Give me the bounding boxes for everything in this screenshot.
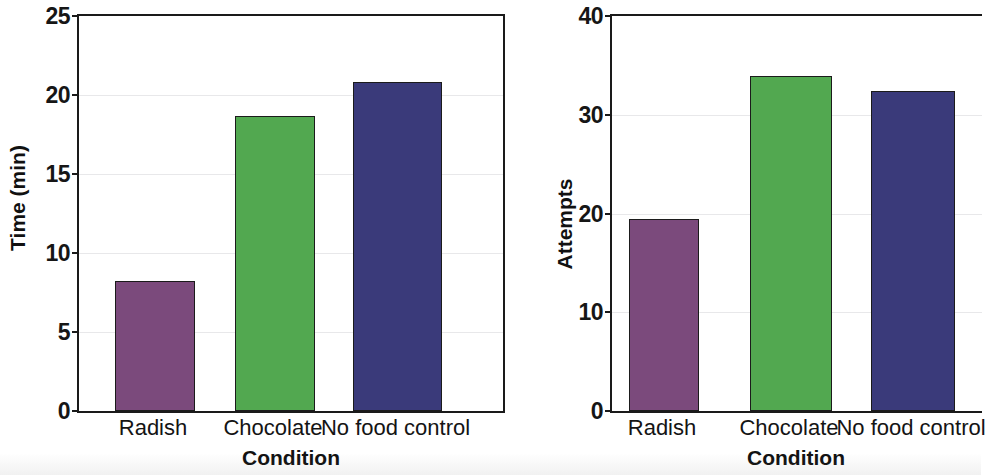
y-axis-tick-mark (605, 114, 612, 116)
y-axis-tick-mark (605, 15, 612, 17)
bar-no-food-control (871, 91, 955, 411)
y-axis-tick-mark (605, 311, 612, 313)
x-axis-category-labels-left: RadishChocolateNo food control (77, 415, 505, 445)
y-axis-title-right: Attempts (553, 164, 577, 284)
chart-panel-attempts: Attempts 010203040 RadishChocolateNo foo… (505, 0, 981, 475)
bar-chocolate (235, 116, 315, 411)
x-axis-category-labels-right: RadishChocolateNo food control (610, 415, 982, 445)
x-axis-title-left: Condition (77, 446, 505, 470)
x-axis-label-chocolate: Chocolate (223, 415, 322, 441)
y-axis-tick-mark (72, 173, 79, 175)
plot-area-right: 010203040 (610, 14, 982, 413)
bar-radish (115, 281, 195, 411)
y-axis-tick-mark (605, 410, 612, 412)
x-axis-title-right: Condition (610, 446, 982, 470)
chart-panel-time: Time (min) 0510152025 RadishChocolateNo … (0, 0, 505, 475)
y-axis-tick-mark (72, 252, 79, 254)
plot-area-left: 0510152025 (77, 14, 505, 413)
x-axis-label-radish: Radish (628, 415, 696, 441)
x-axis-label-no-food-control: No food control (321, 415, 470, 441)
x-axis-label-chocolate: Chocolate (739, 415, 838, 441)
y-axis-tick-mark (72, 94, 79, 96)
y-axis-tick-mark (72, 15, 79, 17)
x-axis-label-no-food-control: No food control (836, 415, 985, 441)
y-axis-tick-mark (72, 410, 79, 412)
y-axis-tick-mark (605, 213, 612, 215)
bar-radish (629, 219, 699, 411)
bar-no-food-control (353, 82, 442, 411)
bar-chocolate (750, 76, 832, 411)
y-axis-tick-mark (72, 331, 79, 333)
x-axis-label-radish: Radish (119, 415, 187, 441)
y-axis-title-left: Time (min) (6, 138, 30, 258)
